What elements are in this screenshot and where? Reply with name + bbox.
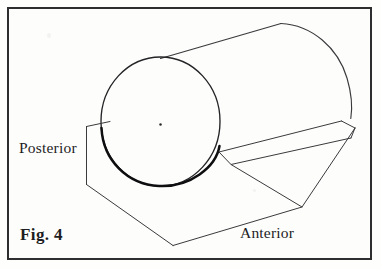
scan-speck <box>47 33 51 38</box>
figure-border-frame <box>7 7 372 260</box>
scan-speck <box>253 189 256 192</box>
figure-caption: Fig. 4 <box>20 225 63 245</box>
figure-container: Posterior Anterior Fig. 4 <box>0 0 381 269</box>
label-posterior: Posterior <box>19 139 77 157</box>
label-anterior: Anterior <box>240 224 294 242</box>
